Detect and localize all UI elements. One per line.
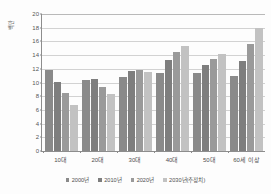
legend-label: 2030년(추정치) — [169, 176, 205, 184]
bar-group — [43, 14, 80, 151]
legend-item[interactable]: 2000년 — [66, 176, 89, 184]
y-tick-label: 12 — [32, 66, 39, 72]
bar-group — [191, 14, 228, 151]
bar — [173, 52, 181, 151]
bar-group — [154, 14, 191, 151]
x-axis-label: 20대 — [79, 155, 116, 167]
bar-groups — [43, 14, 265, 151]
y-tick-mark — [40, 68, 42, 69]
bar-group — [80, 14, 117, 151]
legend-swatch-icon — [131, 178, 135, 182]
legend-label: 2000년 — [72, 176, 89, 184]
legend-swatch-icon — [163, 178, 167, 182]
bar — [54, 82, 62, 151]
bar — [165, 60, 173, 151]
bar — [247, 44, 255, 151]
x-tick-mark — [117, 151, 118, 153]
bar — [156, 73, 164, 151]
bar — [210, 59, 218, 151]
y-tick-label: 6 — [36, 107, 39, 113]
plot-area: 02468101214161820 — [41, 14, 265, 152]
legend-item[interactable]: 2020년 — [131, 176, 154, 184]
y-tick-mark — [40, 137, 42, 138]
bar — [144, 72, 152, 151]
legend-label: 2020년 — [137, 176, 154, 184]
x-axis-label: 10대 — [42, 155, 79, 167]
bar — [239, 61, 247, 151]
x-tick-mark — [228, 151, 229, 153]
y-axis-title: 백만 — [9, 16, 14, 34]
bar — [181, 46, 189, 151]
x-tick-mark — [154, 151, 155, 153]
y-tick-mark — [40, 14, 42, 15]
bar — [82, 80, 90, 151]
y-tick-label: 8 — [36, 93, 39, 99]
y-tick-label: 16 — [32, 38, 39, 44]
bar — [91, 79, 99, 151]
bar-group — [117, 14, 154, 151]
bar — [119, 77, 127, 151]
y-tick-label: 14 — [32, 52, 39, 58]
legend-swatch-icon — [66, 178, 70, 182]
y-tick-mark — [40, 123, 42, 124]
y-tick-mark — [40, 109, 42, 110]
bar — [62, 93, 70, 151]
bar-chart: 백만 02468101214161820 10대20대30대40대50대60세 … — [0, 0, 271, 194]
chart-legend: 2000년2010년2020년2030년(추정치) — [0, 176, 271, 184]
bar — [255, 28, 263, 151]
bar — [230, 76, 238, 151]
x-axis-label: 50대 — [191, 155, 228, 167]
y-tick-mark — [40, 96, 42, 97]
x-axis-label: 30대 — [116, 155, 153, 167]
y-tick-label: 10 — [32, 80, 39, 86]
y-tick-label: 4 — [36, 121, 39, 127]
legend-item[interactable]: 2010년 — [98, 176, 121, 184]
x-axis-labels: 10대20대30대40대50대60세 이상 — [42, 155, 265, 167]
bar — [136, 70, 144, 152]
y-tick-mark — [40, 55, 42, 56]
bar-group — [228, 14, 265, 151]
bar — [218, 54, 226, 151]
y-tick-mark — [40, 27, 42, 28]
legend-item[interactable]: 2030년(추정치) — [163, 176, 205, 184]
bar — [70, 105, 78, 151]
y-tick-label: 18 — [32, 25, 39, 31]
y-tick-mark — [40, 41, 42, 42]
bar — [107, 94, 115, 151]
x-axis-label: 40대 — [154, 155, 191, 167]
bar — [202, 65, 210, 151]
legend-swatch-icon — [98, 178, 102, 182]
bar — [45, 70, 53, 152]
y-tick-mark — [40, 151, 42, 152]
x-tick-mark — [43, 151, 44, 153]
y-tick-label: 0 — [36, 148, 39, 154]
x-tick-mark — [191, 151, 192, 153]
x-axis-label: 60세 이상 — [228, 155, 265, 167]
bar — [99, 87, 107, 151]
y-tick-label: 20 — [32, 11, 39, 17]
x-tick-mark — [80, 151, 81, 153]
bar — [128, 71, 136, 151]
y-tick-mark — [40, 82, 42, 83]
bar — [193, 73, 201, 151]
y-tick-label: 2 — [36, 134, 39, 140]
legend-label: 2010년 — [104, 176, 121, 184]
